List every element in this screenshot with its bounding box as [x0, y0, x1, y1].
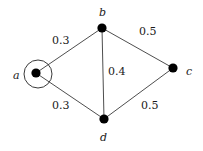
edge-weight-a-b: 0.3	[52, 35, 70, 46]
graph-canvas	[0, 0, 203, 151]
edge-weight-b-c: 0.5	[139, 26, 157, 37]
node-label-c: c	[186, 66, 192, 77]
edge-weight-d-c: 0.5	[141, 100, 159, 111]
edge-a-d	[36, 73, 104, 119]
node-label-a: a	[13, 70, 20, 81]
edge-b-d	[102, 28, 104, 119]
node-b[interactable]	[97, 23, 106, 32]
node-label-b: b	[99, 7, 106, 18]
graph-figure: a b c d 0.3 0.3 0.4 0.5 0.5	[0, 0, 203, 151]
edge-b-c	[102, 28, 173, 68]
node-label-d: d	[100, 132, 107, 143]
node-c[interactable]	[168, 63, 177, 72]
edge-weight-b-d: 0.4	[108, 66, 126, 77]
edge-weight-a-d: 0.3	[52, 100, 70, 111]
node-a[interactable]	[31, 68, 40, 77]
node-d[interactable]	[99, 114, 108, 123]
